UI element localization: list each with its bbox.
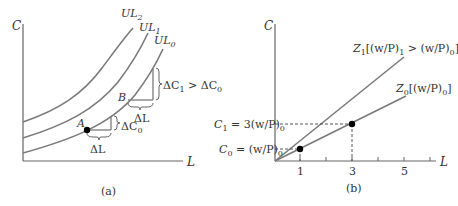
tick-label-5: 5	[401, 165, 408, 178]
delta-c1-gt-delta-c0-label: ΔC1 > ΔC0	[163, 79, 222, 94]
panel-b-caption: (b)	[346, 182, 362, 195]
delta-l-a-label: ΔL	[90, 143, 106, 156]
ul2-label: UL2	[121, 7, 143, 22]
tick-label-1: 1	[297, 165, 304, 178]
panel-a-y-label: C	[12, 19, 21, 33]
z1-label: Z1[(w/P)1 > (w/P)0]	[352, 42, 458, 57]
brace-delta-l-b	[128, 103, 153, 110]
panel-a-x-label: L	[186, 155, 195, 169]
brace-delta-c1	[156, 68, 162, 100]
z0-line	[275, 96, 406, 161]
panel-b-y-label: C	[264, 19, 273, 33]
ul0-label: UL0	[154, 34, 176, 49]
z1-line	[275, 57, 404, 161]
point-b-label: B	[117, 91, 126, 104]
panel-b: C L 1 3 5 Z1[(w/P)1 > (w/P)0] Z0[(w/P)0]…	[214, 19, 458, 195]
point-c1-dot	[349, 121, 355, 127]
diagram-canvas: C L UL2 UL1 UL0 A ΔL ΔC0 B ΔL ΔC1 > ΔC0 …	[0, 0, 458, 206]
c0-label: C0 = (w/P)0	[219, 143, 283, 158]
z0-label: Z0[(w/P)0]	[395, 82, 452, 97]
brace-delta-c0	[114, 116, 120, 130]
panel-b-x-label: L	[439, 155, 448, 169]
tick-label-3: 3	[349, 165, 356, 178]
brace-delta-l-a	[87, 133, 111, 140]
c1-label: C1 = 3(w/P)0	[214, 118, 285, 133]
panel-a-caption: (a)	[101, 185, 116, 198]
delta-l-b-label: ΔL	[134, 112, 150, 125]
point-c0-dot	[297, 146, 303, 152]
ul2-curve	[23, 28, 133, 122]
point-a-label: A	[76, 117, 85, 130]
panel-a: C L UL2 UL1 UL0 A ΔL ΔC0 B ΔL ΔC1 > ΔC0 …	[12, 7, 222, 198]
